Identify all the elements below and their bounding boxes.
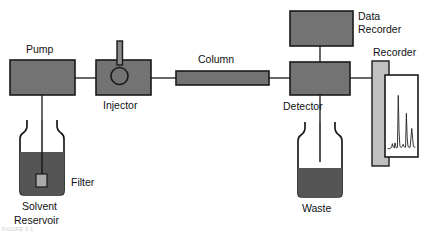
waste-label: Waste bbox=[302, 202, 332, 214]
data-recorder-label-line2: Recorder bbox=[358, 23, 402, 35]
column-label: Column bbox=[198, 53, 234, 65]
filter-label: Filter bbox=[71, 176, 95, 188]
hplc-schematic: Pump Injector Column Detector Data Recor… bbox=[0, 0, 432, 233]
figure-caption-fragment: FIGURE 3-1 bbox=[2, 226, 34, 232]
detector-component[interactable]: Detector bbox=[283, 62, 350, 112]
pump-label: Pump bbox=[26, 43, 54, 55]
solvent-reservoir-component[interactable]: Filter Solvent Reservoir bbox=[14, 120, 95, 226]
column-box[interactable] bbox=[176, 71, 269, 85]
filter-frit[interactable] bbox=[36, 174, 47, 187]
data-recorder-component[interactable]: Data Recorder bbox=[290, 10, 402, 46]
hplc-diagram-root: Pump Injector Column Detector Data Recor… bbox=[0, 0, 432, 233]
data-recorder-box[interactable] bbox=[290, 11, 353, 46]
detector-label: Detector bbox=[283, 100, 323, 112]
recorder-component[interactable]: Recorder bbox=[372, 46, 418, 166]
waste-bottle-component[interactable]: Waste bbox=[298, 122, 342, 214]
solvent-reservoir-label-line2: Reservoir bbox=[14, 214, 59, 226]
data-recorder-label-line1: Data bbox=[358, 10, 380, 22]
pump-component[interactable]: Pump bbox=[10, 43, 75, 95]
pump-box[interactable] bbox=[10, 60, 75, 95]
recorder-label: Recorder bbox=[373, 46, 417, 58]
injector-component[interactable]: Injector bbox=[96, 41, 151, 111]
injector-label: Injector bbox=[103, 99, 138, 111]
detector-box[interactable] bbox=[290, 62, 350, 95]
injector-valve-rotor-icon[interactable] bbox=[111, 68, 128, 85]
waste-liquid bbox=[298, 168, 342, 197]
solvent-reservoir-label-line1: Solvent bbox=[22, 200, 57, 212]
column-component[interactable]: Column bbox=[176, 53, 269, 85]
injector-handle[interactable] bbox=[117, 41, 123, 65]
